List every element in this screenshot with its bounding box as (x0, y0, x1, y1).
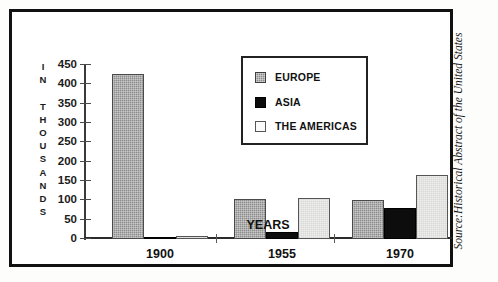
chart-legend: EUROPE ASIA THE AMERICAS (241, 56, 368, 145)
legend-item-asia: ASIA (255, 96, 301, 108)
x-category-label: 1955 (268, 247, 296, 261)
y-tick-mark (80, 199, 91, 200)
y-tick: 250 (84, 141, 85, 142)
y-tick-label: 200 (58, 155, 77, 167)
bar-group (112, 65, 212, 239)
y-tick-mark (80, 161, 91, 162)
y-tick-mark (80, 141, 91, 142)
y-tick-mark (80, 238, 91, 239)
y-tick-label: 100 (58, 193, 77, 205)
y-tick-label: 50 (64, 213, 77, 225)
y-tick-mark (80, 103, 91, 104)
y-tick-mark (80, 122, 91, 123)
y-tick-label: 0 (71, 232, 77, 244)
bar-the-americas-1900 (176, 236, 208, 239)
x-axis-title: YEARS (84, 218, 452, 232)
legend-label-americas: THE AMERICAS (275, 120, 357, 132)
y-tick: 450 (84, 64, 85, 65)
y-tick-label: 250 (58, 135, 77, 147)
y-tick: 350 (84, 103, 85, 104)
source-note: Source:Historical Abstract of the United… (452, 33, 464, 250)
y-tick-label: 350 (58, 97, 77, 109)
asia-swatch-icon (255, 97, 266, 108)
chart-frame: I N T H O U S A N D S 050100150200250300… (9, 9, 453, 267)
y-tick-label: 400 (58, 77, 77, 89)
americas-swatch-icon (255, 121, 266, 132)
legend-item-americas: THE AMERICAS (255, 120, 357, 132)
y-tick-mark (80, 83, 91, 84)
legend-label-asia: ASIA (275, 96, 301, 108)
y-tick-mark (80, 180, 91, 181)
y-axis-line (84, 65, 86, 240)
y-tick: 0 (84, 238, 85, 239)
chart-figure: I N T H O U S A N D S 050100150200250300… (0, 0, 498, 282)
y-tick: 300 (84, 122, 85, 123)
bar-europe-1900 (112, 74, 144, 239)
y-axis-title: I N T H O U S A N D S (34, 60, 52, 218)
y-tick: 400 (84, 83, 85, 84)
legend-item-europe: EUROPE (255, 71, 321, 83)
x-separator-tick (216, 234, 217, 243)
y-tick-label: 300 (58, 116, 77, 128)
y-tick: 100 (84, 199, 85, 200)
bar-asia-1900 (144, 237, 176, 239)
x-category-label: 1970 (386, 247, 414, 261)
x-separator-tick (334, 234, 335, 243)
y-tick-label: 150 (58, 174, 77, 186)
bar-asia-1955 (266, 232, 298, 239)
y-tick-mark (80, 64, 91, 65)
europe-swatch-icon (255, 72, 266, 83)
y-tick: 150 (84, 180, 85, 181)
y-tick: 200 (84, 161, 85, 162)
x-category-label: 1900 (146, 247, 174, 261)
legend-label-europe: EUROPE (275, 71, 321, 83)
y-tick-label: 450 (58, 58, 77, 70)
